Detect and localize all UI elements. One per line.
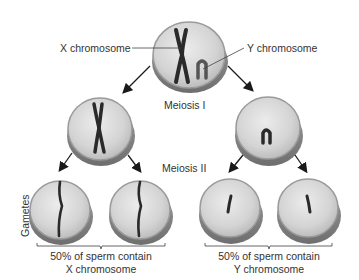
arrow-icon (60, 153, 72, 170)
y-sperm-caption: 50% of sperm contain Y chromosome (199, 250, 339, 276)
meiosis-1-label: Meiosis I (164, 100, 205, 111)
parent-cell (152, 22, 228, 93)
gamete-cell-x (29, 181, 93, 245)
meiosis-diagram: X chromosome Y chromosome Meiosis I Meio… (0, 0, 359, 280)
gamete-cell-x (109, 181, 173, 245)
x-sperm-caption: 50% of sperm contain X chromosome (31, 250, 171, 276)
bracket-y (205, 243, 332, 249)
x-caption-line1: 50% of sperm contain (31, 250, 171, 263)
arrow-icon (230, 155, 243, 171)
arrow-icon (124, 66, 150, 92)
arrow-icon (228, 66, 252, 90)
gametes-label: Gametes (19, 194, 31, 237)
y-caption-line1: 50% of sperm contain (199, 250, 339, 263)
y-chromosome-label: Y chromosome (247, 43, 317, 54)
meiosis1-right-cell (235, 97, 303, 166)
gamete-cell-y (277, 179, 341, 244)
y-caption-line2: Y chromosome (199, 263, 339, 276)
meiosis-2-label: Meiosis II (162, 163, 206, 174)
arrow-icon (295, 155, 306, 171)
x-chromosome-label: X chromosome (60, 43, 131, 54)
x-caption-line2: X chromosome (31, 263, 171, 276)
arrow-icon (128, 155, 140, 171)
gamete-cell-y (199, 179, 263, 244)
meiosis1-left-cell (67, 98, 135, 166)
